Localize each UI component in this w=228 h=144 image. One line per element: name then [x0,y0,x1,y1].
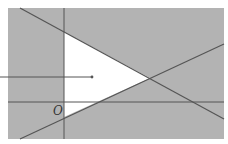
diagram-canvas: O [0,0,228,144]
pointer-dot [91,76,94,79]
origin-label: O [53,104,63,118]
